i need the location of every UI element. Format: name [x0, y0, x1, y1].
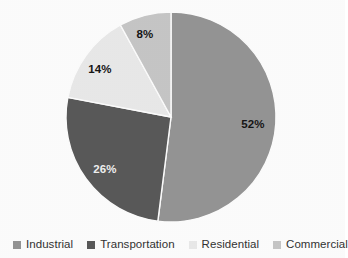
- legend-item-transportation[interactable]: Transportation: [87, 239, 174, 251]
- legend-item-commercial[interactable]: Commercial: [273, 239, 348, 251]
- legend-swatch-icon: [87, 241, 95, 249]
- legend-label: Residential: [202, 239, 259, 251]
- pie-slice-group: [66, 12, 276, 222]
- pie-slice-industrial[interactable]: [158, 12, 276, 222]
- pie-data-label-residential: 14%: [88, 64, 111, 76]
- pie-data-label-commercial: 8%: [137, 29, 154, 41]
- legend-swatch-icon: [13, 241, 21, 249]
- legend-swatch-icon: [189, 241, 197, 249]
- pie-slice-transportation[interactable]: [66, 97, 171, 221]
- pie-data-label-industrial: 52%: [241, 119, 264, 131]
- legend-label: Commercial: [286, 239, 348, 251]
- legend-item-residential[interactable]: Residential: [189, 239, 259, 251]
- pie-svg: [0, 0, 345, 228]
- legend-label: Transportation: [100, 239, 174, 251]
- legend-swatch-icon: [273, 241, 281, 249]
- pie-plot-area: 52%26%14%8%: [0, 0, 345, 228]
- chart-legend: IndustrialTransportationResidentialComme…: [0, 232, 345, 258]
- pie-data-label-transportation: 26%: [93, 164, 116, 176]
- legend-item-industrial[interactable]: Industrial: [13, 239, 73, 251]
- legend-label: Industrial: [26, 239, 73, 251]
